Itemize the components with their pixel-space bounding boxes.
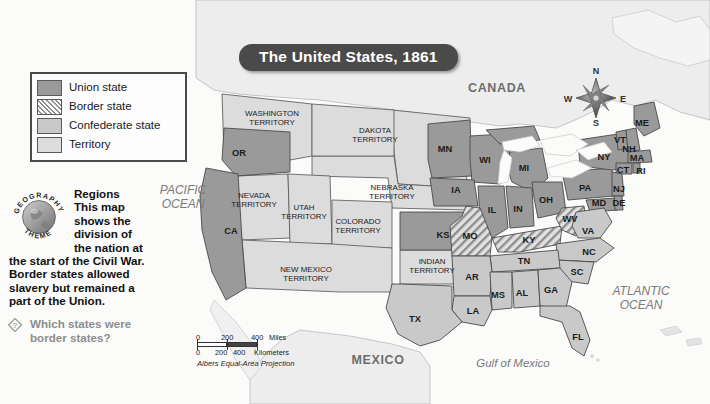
geo-heading: Regions xyxy=(74,187,193,200)
legend-item-union: Union state xyxy=(37,79,180,97)
geo-body-line-7: slavery but remained a xyxy=(9,281,135,294)
scale-miles-ticks: 0 200 400 Miles xyxy=(197,333,322,342)
geo-body-line-6: Border states allowed xyxy=(9,267,129,280)
legend-label-confederate: Confederate state xyxy=(69,120,160,132)
geo-body-line-4: the nation at xyxy=(74,241,143,254)
km-tick-400: 400 xyxy=(233,348,245,357)
scale-km-ticks: 0 200 400 Kilometers xyxy=(197,348,322,357)
projection-note: Albers Equal-Area Projection xyxy=(197,359,322,368)
svg-text:?: ? xyxy=(13,321,18,330)
union-swatch xyxy=(37,80,62,96)
geography-theme-block: GEOGRAPHY THEME Regions This map shows t… xyxy=(8,186,193,345)
scale-bar: 0 200 400 Miles 0 200 400 Kilometers Alb… xyxy=(197,333,322,368)
legend-item-confederate: Confederate state xyxy=(37,117,180,135)
diamond-question-icon: ? xyxy=(8,318,22,332)
geography-theme-globe-icon: GEOGRAPHY THEME xyxy=(10,188,68,246)
map-canvas: The United States, 1861 Union state Bord… xyxy=(0,0,710,404)
compass-rose-icon: N E S W xyxy=(560,62,632,130)
km-tick-200: 200 xyxy=(215,348,227,357)
compass-west-label: W xyxy=(564,94,573,104)
confederate-swatch xyxy=(37,118,62,134)
compass-rose: N E S W xyxy=(560,62,632,130)
geo-body-line-3: division of xyxy=(74,227,132,240)
compass-north-label: N xyxy=(593,66,600,76)
compass-south-label: S xyxy=(593,118,599,128)
question-line-2: border states? xyxy=(30,331,111,344)
question-line-1: Which states were xyxy=(30,317,131,330)
legend-label-border: Border state xyxy=(69,101,132,113)
scale-bar-graphic xyxy=(197,342,322,347)
map-legend: Union state Border state Confederate sta… xyxy=(30,72,187,162)
geography-theme-question: ? Which states were border states? xyxy=(8,317,193,345)
legend-item-territory: Territory xyxy=(37,136,180,154)
legend-label-union: Union state xyxy=(69,82,127,94)
geography-theme-text-continued: the start of the Civil War. Border state… xyxy=(8,254,193,308)
geo-body-line-2: shows the xyxy=(74,214,131,227)
legend-label-territory: Territory xyxy=(69,139,111,151)
compass-east-label: E xyxy=(620,94,626,104)
territory-swatch xyxy=(37,137,62,153)
geo-body-line-1: This map xyxy=(74,200,125,213)
map-title: The United States, 1861 xyxy=(239,44,458,71)
legend-item-border: Border state xyxy=(37,98,180,116)
geo-body-line-5: the start of the Civil War. xyxy=(9,254,145,267)
miles-unit: Miles xyxy=(269,333,286,342)
km-unit: Kilometers xyxy=(254,348,289,357)
km-tick-0: 0 xyxy=(196,348,200,357)
border-hatched-swatch xyxy=(37,99,62,115)
geo-body-line-8: part of the Union. xyxy=(9,294,105,307)
